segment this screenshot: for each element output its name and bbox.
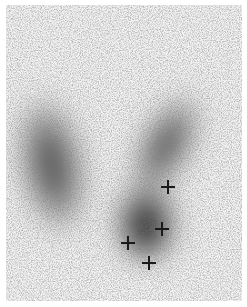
marker-4 bbox=[142, 256, 156, 270]
scan-render bbox=[6, 5, 242, 301]
marker-3 bbox=[121, 236, 135, 250]
thyroid-scan-image bbox=[6, 5, 242, 301]
marker-2 bbox=[155, 222, 169, 236]
marker-1 bbox=[161, 180, 175, 194]
